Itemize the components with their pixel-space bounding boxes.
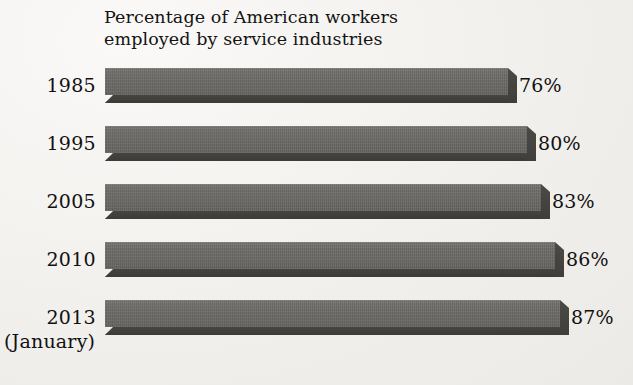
bar-bottom-bevel [105, 327, 560, 335]
bar-row: 2005 83% [0, 178, 633, 224]
bar-face [105, 68, 508, 95]
bar-end-cap [527, 126, 536, 161]
category-label-2010: 2010 [0, 248, 96, 270]
bar-1995 [105, 126, 527, 153]
bar-row: 2010 86% [0, 236, 633, 282]
category-label-2005: 2005 [0, 190, 96, 212]
bar-row: 1995 80% [0, 120, 633, 166]
value-label-2005: 83% [552, 190, 595, 212]
bar-2005 [105, 184, 541, 211]
bar-row: 2013 (January) 87% [0, 294, 633, 340]
category-label-1985: 1985 [0, 74, 96, 96]
bar-face [105, 126, 527, 153]
bar-end-cap [508, 68, 517, 103]
bar-2010 [105, 242, 555, 269]
bar-face [105, 184, 541, 211]
plot-area: 1985 76% 1995 80% 2005 [0, 0, 633, 385]
category-sublabel-2013: (January) [4, 330, 100, 352]
value-label-1985: 76% [519, 74, 562, 96]
bar-face [105, 242, 555, 269]
category-label-1995: 1995 [0, 132, 96, 154]
value-label-2010: 86% [566, 248, 609, 270]
category-label-2013: 2013 [0, 306, 96, 328]
bar-bottom-bevel [105, 211, 541, 219]
bar-bottom-bevel [105, 95, 508, 103]
value-label-1995: 80% [538, 132, 581, 154]
bar-face [105, 300, 560, 327]
bar-2013 [105, 300, 560, 327]
bar-bottom-bevel [105, 153, 527, 161]
bar-end-cap [555, 242, 564, 277]
bar-bottom-bevel [105, 269, 555, 277]
bar-chart: Percentage of American workers employed … [0, 0, 633, 385]
bar-row: 1985 76% [0, 62, 633, 108]
bar-1985 [105, 68, 508, 95]
bar-end-cap [560, 300, 569, 335]
value-label-2013: 87% [571, 306, 614, 328]
bar-end-cap [541, 184, 550, 219]
